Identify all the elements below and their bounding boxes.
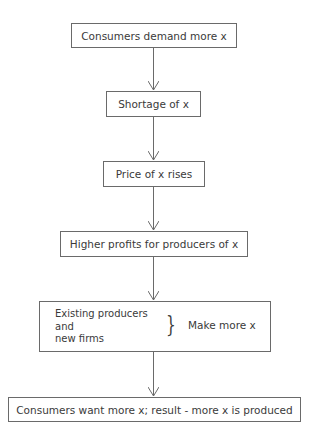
arrow-2 — [153, 117, 154, 160]
node-label: Higher profits for producers of x — [70, 238, 238, 250]
arrowhead-icon — [148, 387, 159, 397]
line-existing-producers: Existing producers — [55, 308, 148, 321]
node-make-more: Existing producers and new firms } Make … — [39, 301, 271, 352]
node-shortage: Shortage of x — [106, 91, 201, 117]
node-label: Consumers demand more x — [81, 30, 227, 42]
arrowhead-icon — [148, 151, 159, 161]
arrow-4 — [153, 257, 154, 300]
producers-list: Existing producers and new firms — [55, 308, 148, 346]
node-consumers-demand: Consumers demand more x — [71, 23, 237, 48]
node-higher-profits: Higher profits for producers of x — [60, 231, 248, 257]
arrowhead-icon — [148, 221, 159, 231]
line-and: and — [55, 321, 148, 334]
node-label: Shortage of x — [118, 98, 189, 110]
node-label: Price of x rises — [116, 168, 193, 180]
node-result: Consumers want more x; result - more x i… — [8, 397, 301, 422]
arrowhead-icon — [148, 81, 159, 91]
arrowhead-icon — [148, 291, 159, 301]
arrow-5 — [153, 352, 154, 396]
node-label: Make more x — [188, 319, 256, 331]
line-new-firms: new firms — [55, 333, 148, 346]
arrow-3 — [153, 187, 154, 230]
brace-icon: } — [166, 314, 176, 336]
node-price-rises: Price of x rises — [103, 161, 205, 187]
arrow-1 — [153, 48, 154, 90]
node-label: Consumers want more x; result - more x i… — [16, 404, 292, 416]
